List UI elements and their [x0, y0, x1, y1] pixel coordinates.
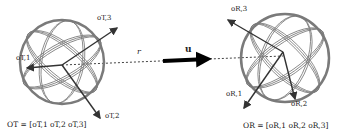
- label-right-axis-3: oR,3: [231, 5, 247, 13]
- u-arrow: [163, 59, 208, 61]
- label-right-axis-1: oR,1: [226, 90, 242, 98]
- label-u: u: [185, 44, 192, 54]
- equation-left: OT = [oT,1 oT,2 oT,3]: [7, 120, 87, 129]
- right-sphere: [228, 8, 333, 108]
- diagram-canvas: [0, 0, 346, 139]
- label-left-axis-1: oT,1: [16, 54, 31, 62]
- label-r: r: [137, 47, 141, 56]
- label-right-axis-2: oR,2: [291, 100, 307, 108]
- equation-right: OR = [oR,1 oR,2 oR,3]: [243, 121, 328, 130]
- right-axis-2: [283, 52, 295, 99]
- left-sphere: [15, 17, 117, 118]
- label-left-axis-2: oT,2: [105, 112, 120, 120]
- label-left-axis-3: oT,3: [97, 14, 112, 22]
